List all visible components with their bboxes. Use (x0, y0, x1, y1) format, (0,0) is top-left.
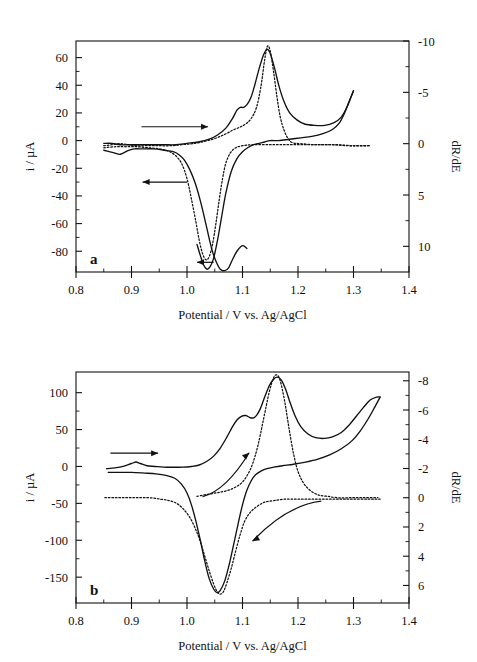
plot-frame-a (76, 41, 409, 272)
y2-tick-label: 4 (418, 550, 425, 564)
x-tick-label: 1.0 (179, 614, 195, 628)
series-a-1 (104, 49, 354, 145)
y-tick-label: 50 (56, 423, 69, 437)
x-tick-label: 1.3 (346, 614, 362, 628)
y-tick-label: -80 (51, 245, 68, 259)
arrow-head (242, 453, 249, 460)
x-tick-label: 1.1 (235, 283, 251, 297)
y2-tick-label: 2 (418, 520, 424, 534)
arrow-head (201, 124, 208, 130)
y-tick-label: 0 (62, 460, 68, 474)
x-tick-label: 0.9 (124, 614, 140, 628)
panel-letter-a: a (90, 251, 98, 267)
arrow-head (197, 259, 204, 265)
x-axis-a: 0.80.91.01.11.21.31.4Potential / V vs. A… (68, 266, 417, 322)
x-tick-label: 0.8 (68, 614, 84, 628)
x-tick-label: 0.9 (124, 283, 140, 297)
y-tick-label: -40 (51, 189, 68, 203)
y-axis-left-title: i / µA (23, 142, 37, 171)
x-tick-label: 1.3 (346, 283, 362, 297)
x-tick-label: 1.2 (290, 614, 306, 628)
y-axis-left-title: i / µA (23, 473, 37, 502)
x-axis-title: Potential / V vs. Ag/AgCl (178, 308, 307, 322)
y2-tick-label: -4 (418, 433, 429, 447)
figure-cyclic-voltammetry: 0.80.91.01.11.21.31.4Potential / V vs. A… (0, 0, 477, 662)
series-a-2 (197, 91, 354, 269)
arrow-head (151, 450, 158, 456)
y2-tick-label: 10 (418, 240, 431, 254)
y-tick-label: -50 (51, 497, 68, 511)
y-tick-label: -20 (51, 162, 68, 176)
x-tick-label: 1.4 (401, 283, 417, 297)
x-tick-label: 1.4 (401, 614, 417, 628)
y-tick-label: 60 (56, 51, 69, 65)
y-tick-label: -60 (51, 217, 68, 231)
y2-tick-label: -8 (418, 374, 428, 388)
y-axis-left-b: 100500-50-100-150i / µA (23, 386, 82, 585)
y-axis-right-b: -8-6-4-20246dR/dE (403, 374, 463, 593)
chart-panel-a: 0.80.91.01.11.21.31.4Potential / V vs. A… (0, 0, 477, 331)
y2-tick-label: 5 (418, 189, 424, 203)
x-axis-title: Potential / V vs. Ag/AgCl (178, 639, 307, 653)
panel-letter-b: b (90, 582, 98, 598)
y2-tick-label: -2 (418, 462, 428, 476)
series-b-1 (108, 397, 380, 593)
y2-tick-label: 0 (418, 491, 424, 505)
x-tick-label: 1.1 (235, 614, 251, 628)
series-a-4 (104, 145, 370, 260)
chart-svg-a: 0.80.91.01.11.21.31.4Potential / V vs. A… (0, 0, 477, 331)
arrow-head (252, 535, 260, 541)
y-tick-label: -100 (45, 534, 68, 548)
y-axis-left-a: 6040200-20-40-60-80i / µA (23, 51, 82, 259)
y2-tick-label: -5 (418, 86, 428, 100)
plot-frame-b (76, 372, 409, 603)
chart-panel-b: 0.80.91.01.11.21.31.4Potential / V vs. A… (0, 331, 477, 662)
series-b-3 (105, 498, 380, 595)
arrow-head (143, 179, 150, 185)
left-pointing-arrow (143, 179, 187, 185)
x-tick-label: 1.2 (290, 283, 306, 297)
y2-tick-label: 6 (418, 579, 424, 593)
sweep-direction-arrow-down (252, 501, 321, 541)
data-layer-b (105, 375, 380, 594)
y2-tick-label: -6 (418, 404, 428, 418)
y2-tick-label: -10 (418, 35, 435, 49)
right-pointing-arrow (141, 124, 208, 130)
y-axis-right-title: dR/dE (449, 472, 463, 504)
x-tick-label: 0.8 (68, 283, 84, 297)
y-tick-label: -150 (45, 571, 68, 585)
arrow-shaft (252, 501, 321, 541)
data-layer-a (104, 46, 370, 271)
y-axis-right-a: -10-50510dR/dE (403, 35, 463, 254)
y-tick-label: 20 (56, 106, 69, 120)
y-tick-label: 0 (62, 134, 68, 148)
series-a-0 (104, 149, 247, 271)
y-tick-label: 100 (49, 386, 68, 400)
y-tick-label: 40 (56, 79, 69, 93)
chart-svg-b: 0.80.91.01.11.21.31.4Potential / V vs. A… (0, 331, 477, 662)
x-axis-b: 0.80.91.01.11.21.31.4Potential / V vs. A… (68, 597, 417, 653)
x-tick-label: 1.0 (179, 283, 195, 297)
y-axis-right-title: dR/dE (449, 141, 463, 173)
y2-tick-label: 0 (418, 137, 424, 151)
right-pointing-arrow (110, 450, 158, 456)
